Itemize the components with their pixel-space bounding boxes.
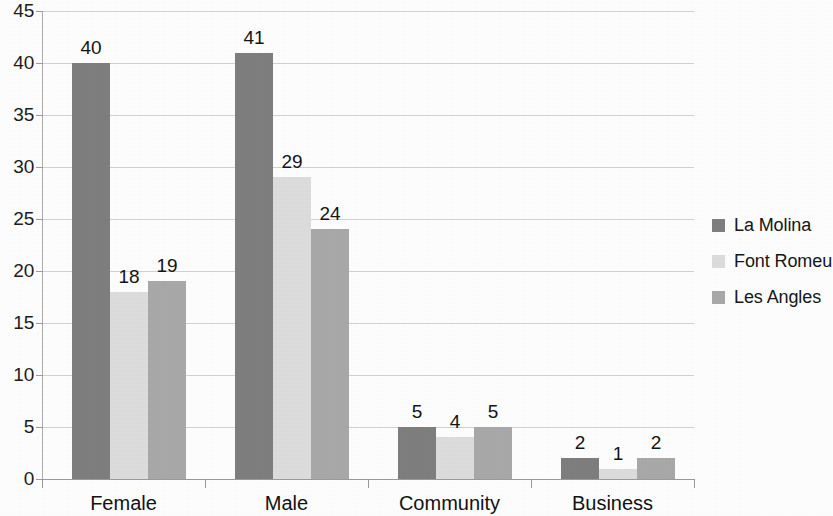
- bar: [599, 469, 637, 479]
- x-axis-category-tick: [531, 479, 532, 488]
- bar-value-label: 5: [474, 402, 512, 421]
- bar-value-label: 2: [561, 433, 599, 452]
- y-tick-0: [36, 479, 43, 480]
- legend-label: Les Angles: [734, 287, 821, 307]
- bar-value-label: 24: [311, 204, 349, 223]
- y-axis-tick-label: 35: [0, 105, 34, 124]
- legend-swatch-icon: [712, 219, 725, 232]
- x-axis-category-tick: [205, 479, 206, 488]
- bar: [436, 437, 474, 479]
- y-axis-labels: 454035302520151050: [0, 0, 34, 516]
- gridline-45: [42, 11, 694, 12]
- legend-item-la-molina: La Molina: [712, 207, 833, 243]
- y-axis-tick-label: 45: [0, 1, 34, 20]
- bar-value-label: 18: [110, 267, 148, 286]
- y-tick-40: [36, 63, 43, 64]
- y-tick-5: [36, 427, 43, 428]
- y-axis-tick-label: 15: [0, 313, 34, 332]
- y-tick-30: [36, 167, 43, 168]
- bar: [148, 281, 186, 479]
- y-axis-tick-label: 5: [0, 417, 34, 436]
- y-tick-20: [36, 271, 43, 272]
- y-tick-15: [36, 323, 43, 324]
- legend-label: Font Romeu: [734, 251, 832, 271]
- y-axis-tick-label: 25: [0, 209, 34, 228]
- y-axis-tick-label: 10: [0, 365, 34, 384]
- gridline-35: [42, 115, 694, 116]
- plot-area: 401819412924545212: [42, 11, 694, 479]
- bar-value-label: 1: [599, 444, 637, 463]
- x-axis-label-business: Business: [531, 492, 694, 514]
- bar: [72, 63, 110, 479]
- bar: [637, 458, 675, 479]
- bar: [273, 177, 311, 479]
- gridline-25: [42, 219, 694, 220]
- y-axis-tick-label: 20: [0, 261, 34, 280]
- bar-value-label: 40: [72, 38, 110, 57]
- legend-item-font-romeu: Font Romeu: [712, 243, 833, 279]
- bar: [398, 427, 436, 479]
- y-tick-45: [36, 11, 43, 12]
- bar: [110, 292, 148, 479]
- y-axis-tick-label: 0: [0, 469, 34, 488]
- bar-value-label: 41: [235, 28, 273, 47]
- x-axis-label-male: Male: [205, 492, 368, 514]
- bar-value-label: 2: [637, 433, 675, 452]
- bar: [235, 53, 273, 479]
- bar-value-label: 29: [273, 152, 311, 171]
- bar: [561, 458, 599, 479]
- bar-value-label: 4: [436, 412, 474, 431]
- y-tick-10: [36, 375, 43, 376]
- chart-legend: La MolinaFont RomeuLes Angles: [712, 207, 833, 315]
- legend-item-les-angles: Les Angles: [712, 279, 833, 315]
- legend-swatch-icon: [712, 255, 725, 268]
- x-axis-category-tick: [42, 479, 43, 488]
- bar: [311, 229, 349, 479]
- bar: [474, 427, 512, 479]
- bar-chart: 454035302520151050 401819412924545212 Fe…: [0, 0, 833, 516]
- bar-value-label: 5: [398, 402, 436, 421]
- x-axis-label-female: Female: [42, 492, 205, 514]
- y-axis-tick-label: 40: [0, 53, 34, 72]
- gridline-30: [42, 167, 694, 168]
- x-axis-category-tick: [694, 479, 695, 488]
- x-axis-label-community: Community: [368, 492, 531, 514]
- y-tick-35: [36, 115, 43, 116]
- x-axis-category-tick: [368, 479, 369, 488]
- gridline-40: [42, 63, 694, 64]
- bar-value-label: 19: [148, 256, 186, 275]
- y-axis-tick-label: 30: [0, 157, 34, 176]
- y-tick-25: [36, 219, 43, 220]
- legend-label: La Molina: [734, 215, 811, 235]
- legend-swatch-icon: [712, 291, 725, 304]
